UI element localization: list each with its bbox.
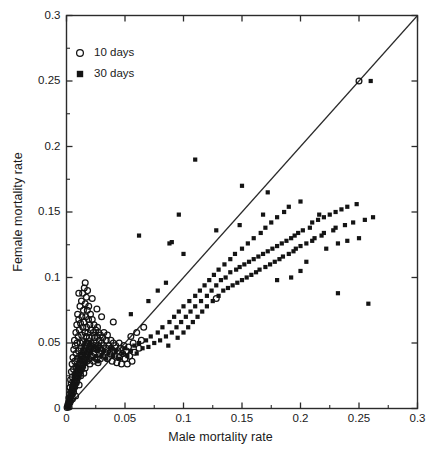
data-point-30-days bbox=[355, 202, 359, 206]
data-point-30-days bbox=[193, 304, 197, 308]
data-point-30-days bbox=[233, 252, 237, 256]
y-tick-label: 0.3 bbox=[21, 9, 61, 21]
data-point-30-days bbox=[198, 289, 202, 293]
data-point-30-days bbox=[281, 254, 285, 258]
data-point-30-days bbox=[205, 304, 209, 308]
data-point-30-days bbox=[296, 231, 300, 235]
data-point-30-days bbox=[195, 315, 199, 319]
data-point-30-days bbox=[164, 334, 168, 338]
legend-label-10-days: 10 days bbox=[94, 46, 134, 58]
data-point-30-days bbox=[275, 215, 279, 219]
data-point-30-days bbox=[249, 273, 253, 277]
data-point-30-days bbox=[188, 309, 192, 313]
data-point-30-days bbox=[240, 184, 244, 188]
x-tick-label: 0 bbox=[47, 412, 87, 424]
data-point-30-days bbox=[268, 262, 272, 266]
data-point-10-days bbox=[76, 290, 82, 296]
data-point-10-days bbox=[110, 319, 116, 325]
data-point-30-days bbox=[304, 241, 308, 245]
data-point-30-days bbox=[228, 257, 232, 261]
data-point-30-days bbox=[261, 252, 265, 256]
y-tick-label: 0.15 bbox=[21, 205, 61, 217]
data-point-30-days bbox=[164, 281, 168, 285]
data-point-30-days bbox=[328, 213, 332, 217]
legend-marker-filled-square bbox=[77, 71, 83, 77]
data-point-30-days bbox=[222, 262, 226, 266]
data-point-30-days bbox=[273, 260, 277, 264]
data-point-10-days bbox=[89, 296, 95, 302]
data-point-30-days bbox=[191, 320, 195, 324]
data-point-30-days bbox=[160, 325, 164, 329]
data-point-30-days bbox=[287, 252, 291, 256]
data-point-30-days bbox=[334, 210, 338, 214]
data-point-30-days bbox=[245, 275, 249, 279]
data-point-30-days bbox=[214, 283, 218, 287]
data-point-10-days bbox=[141, 324, 147, 330]
data-point-30-days bbox=[339, 207, 343, 211]
data-point-10-days bbox=[94, 306, 100, 312]
data-point-10-days bbox=[138, 337, 144, 343]
data-point-30-days bbox=[345, 205, 349, 209]
data-point-30-days bbox=[242, 262, 246, 266]
legend-label-30-days: 30 days bbox=[94, 67, 134, 79]
data-point-30-days bbox=[149, 334, 153, 338]
data-point-10-days bbox=[129, 358, 135, 364]
data-point-30-days bbox=[228, 270, 232, 274]
data-point-30-days bbox=[202, 283, 206, 287]
data-point-30-days bbox=[179, 320, 183, 324]
data-point-30-days bbox=[158, 338, 162, 342]
data-point-30-days bbox=[152, 341, 156, 345]
data-point-30-days bbox=[240, 278, 244, 282]
data-point-30-days bbox=[275, 244, 279, 248]
y-tick-label: 0.25 bbox=[21, 74, 61, 86]
data-point-30-days bbox=[170, 330, 174, 334]
data-point-30-days bbox=[316, 218, 320, 222]
data-point-30-days bbox=[298, 199, 302, 203]
data-point-30-days bbox=[235, 281, 239, 285]
data-point-30-days bbox=[187, 299, 191, 303]
y-tick-label: 0.2 bbox=[21, 140, 61, 152]
data-point-30-days bbox=[238, 265, 242, 269]
data-point-30-days bbox=[257, 268, 261, 272]
data-point-30-days bbox=[176, 336, 180, 340]
data-point-30-days bbox=[304, 260, 308, 264]
data-point-30-days bbox=[167, 241, 171, 245]
data-point-30-days bbox=[214, 228, 218, 232]
data-point-30-days bbox=[238, 223, 242, 227]
scatter-plot-figure: 00.050.10.150.20.250.3 00.050.10.150.20.… bbox=[0, 0, 441, 453]
x-tick-label: 0.2 bbox=[281, 412, 321, 424]
data-point-30-days bbox=[282, 210, 286, 214]
data-point-30-days bbox=[181, 330, 185, 334]
data-point-30-days bbox=[146, 345, 150, 349]
data-point-30-days bbox=[252, 236, 256, 240]
data-point-30-days bbox=[181, 252, 185, 256]
data-point-30-days bbox=[207, 278, 211, 282]
data-point-30-days bbox=[129, 312, 133, 316]
data-point-30-days bbox=[259, 231, 263, 235]
y-tick-label: 0 bbox=[21, 402, 61, 414]
y-tick-label: 0.05 bbox=[21, 336, 61, 348]
y-axis-title: Female mortality rate bbox=[11, 112, 25, 312]
x-tick-label: 0.25 bbox=[339, 412, 379, 424]
data-point-30-days bbox=[193, 158, 197, 162]
data-point-30-days bbox=[369, 79, 373, 83]
data-point-30-days bbox=[181, 304, 185, 308]
data-point-30-days bbox=[263, 265, 267, 269]
plot-canvas bbox=[0, 0, 441, 453]
data-point-30-days bbox=[322, 231, 326, 235]
data-point-30-days bbox=[199, 299, 203, 303]
data-point-30-days bbox=[336, 291, 340, 295]
data-point-30-days bbox=[219, 278, 223, 282]
data-point-30-days bbox=[322, 215, 326, 219]
data-point-30-days bbox=[324, 247, 328, 251]
data-point-30-days bbox=[166, 344, 170, 348]
data-point-30-days bbox=[172, 315, 176, 319]
data-point-30-days bbox=[221, 289, 225, 293]
data-point-30-days bbox=[345, 239, 349, 243]
data-point-30-days bbox=[246, 241, 250, 245]
data-point-30-days bbox=[351, 220, 355, 224]
data-point-30-days bbox=[209, 289, 213, 293]
x-tick-label: 0.3 bbox=[398, 412, 438, 424]
data-point-30-days bbox=[266, 190, 270, 194]
data-point-10-days bbox=[83, 294, 89, 300]
